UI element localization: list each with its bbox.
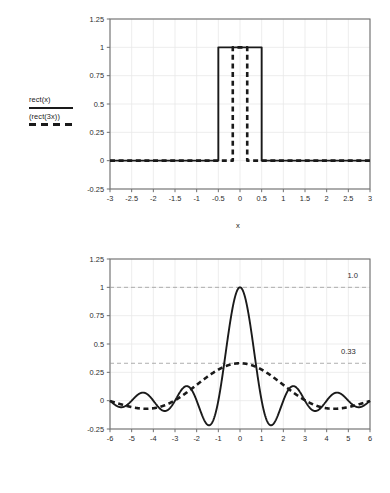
svg-text:-3: -3 <box>172 434 179 443</box>
svg-text:0: 0 <box>100 156 104 165</box>
legend-entry-rect-x: rect(x) <box>28 96 60 112</box>
svg-text:-1.5: -1.5 <box>169 194 182 203</box>
svg-text:1.25: 1.25 <box>90 15 104 24</box>
svg-text:0: 0 <box>238 194 242 203</box>
svg-text:1: 1 <box>100 283 104 292</box>
svg-text:-5: -5 <box>128 434 135 443</box>
svg-text:-0.25: -0.25 <box>87 425 104 434</box>
svg-text:-2: -2 <box>193 434 200 443</box>
svg-text:-2: -2 <box>150 194 157 203</box>
svg-text:1.25: 1.25 <box>90 255 104 264</box>
svg-text:0.25: 0.25 <box>90 128 104 137</box>
svg-text:1: 1 <box>260 434 264 443</box>
svg-text:1.5: 1.5 <box>300 194 310 203</box>
solid-line-swatch <box>29 107 73 109</box>
figure-root: -3-2.5-2-1.5-1-0.500.511.522.53-0.2500.2… <box>0 0 390 493</box>
svg-text:2.5: 2.5 <box>343 194 353 203</box>
svg-text:-2.5: -2.5 <box>125 194 138 203</box>
legend-entry-rect-3x: (rect(3x)) <box>28 113 60 129</box>
svg-text:-6: -6 <box>107 434 114 443</box>
svg-text:3: 3 <box>303 434 307 443</box>
svg-text:1: 1 <box>281 194 285 203</box>
svg-text:5: 5 <box>346 434 350 443</box>
svg-text:0.75: 0.75 <box>90 311 104 320</box>
svg-text:0.5: 0.5 <box>94 340 104 349</box>
svg-text:0.5: 0.5 <box>257 194 267 203</box>
svg-text:0: 0 <box>238 434 242 443</box>
svg-text:6: 6 <box>368 434 372 443</box>
svg-text:0.25: 0.25 <box>90 368 104 377</box>
svg-text:-0.25: -0.25 <box>87 185 104 194</box>
svg-text:2: 2 <box>325 194 329 203</box>
rect-plot-legend: rect(x) (rect(3x)) <box>28 96 60 129</box>
legend-sample-dashed <box>28 121 60 128</box>
sinc-plot-panel: -6-5-4-3-2-10123456-0.2500.250.50.7511.2… <box>0 247 390 493</box>
svg-text:3: 3 <box>368 194 372 203</box>
dashed-line-swatch <box>29 123 73 126</box>
svg-text:2: 2 <box>281 434 285 443</box>
svg-text:-3: -3 <box>107 194 114 203</box>
svg-text:0: 0 <box>100 396 104 405</box>
svg-text:0.5: 0.5 <box>94 100 104 109</box>
legend-label-rect-x: rect(x) <box>28 96 60 105</box>
svg-text:-1: -1 <box>215 434 222 443</box>
svg-text:1: 1 <box>100 43 104 52</box>
svg-text:-4: -4 <box>150 434 157 443</box>
svg-text:1.0: 1.0 <box>347 271 358 280</box>
svg-text:0.75: 0.75 <box>90 71 104 80</box>
svg-text:-1: -1 <box>193 194 200 203</box>
svg-text:0.33: 0.33 <box>341 347 356 356</box>
x-axis-label-top: x <box>236 221 240 230</box>
legend-label-rect-3x: (rect(3x)) <box>28 113 60 122</box>
legend-sample-solid <box>28 105 60 112</box>
svg-text:4: 4 <box>325 434 329 443</box>
rect-plot-panel: -3-2.5-2-1.5-1-0.500.511.522.53-0.2500.2… <box>0 0 390 247</box>
sinc-plot-canvas: -6-5-4-3-2-10123456-0.2500.250.50.7511.2… <box>0 247 390 493</box>
svg-text:-0.5: -0.5 <box>212 194 225 203</box>
